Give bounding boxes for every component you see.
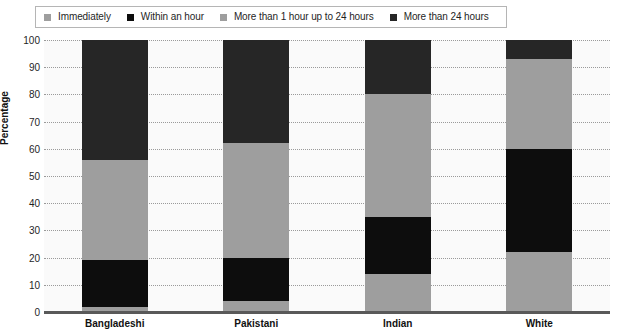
legend-label-more-than-24-hours: More than 24 hours bbox=[404, 12, 489, 22]
x-axis-label-white: White bbox=[526, 318, 553, 329]
bars-layer bbox=[44, 40, 610, 312]
bar-indian bbox=[365, 40, 431, 312]
bar-segment bbox=[223, 40, 289, 143]
legend-label-more-than-1-hour: More than 1 hour up to 24 hours bbox=[234, 12, 374, 22]
bar-segment bbox=[223, 258, 289, 302]
legend-item-immediately: Immediately bbox=[44, 12, 111, 22]
bar-segment bbox=[506, 252, 572, 312]
bar-pakistani bbox=[223, 40, 289, 312]
bar-bangladeshi bbox=[82, 40, 148, 312]
bar-segment bbox=[365, 274, 431, 312]
y-axis-tick-label: 80 bbox=[0, 89, 40, 100]
y-axis-tick-label: 40 bbox=[0, 198, 40, 209]
bar-segment bbox=[506, 149, 572, 252]
y-axis-tick-label: 10 bbox=[0, 279, 40, 290]
bar-white bbox=[506, 40, 572, 312]
legend-label-immediately: Immediately bbox=[58, 12, 111, 22]
y-axis-tick-label: 70 bbox=[0, 116, 40, 127]
legend-swatch-within-an-hour bbox=[127, 14, 134, 21]
bar-segment bbox=[506, 59, 572, 149]
x-axis-label-pakistani: Pakistani bbox=[234, 318, 278, 329]
bar-segment bbox=[365, 217, 431, 274]
bar-segment bbox=[506, 40, 572, 59]
y-axis-tick-label: 90 bbox=[0, 62, 40, 73]
bar-segment bbox=[82, 40, 148, 160]
legend-label-within-an-hour: Within an hour bbox=[141, 12, 204, 22]
legend-swatch-more-than-24-hours bbox=[390, 14, 397, 21]
y-axis-tick-label: 100 bbox=[0, 35, 40, 46]
x-axis-label-bangladeshi: Bangladeshi bbox=[85, 318, 144, 329]
y-axis-tick-label: 20 bbox=[0, 252, 40, 263]
x-axis-line bbox=[44, 311, 610, 314]
legend-item-more-than-1-hour: More than 1 hour up to 24 hours bbox=[220, 12, 374, 22]
chart-legend: Immediately Within an hour More than 1 h… bbox=[35, 6, 507, 28]
legend-item-within-an-hour: Within an hour bbox=[127, 12, 204, 22]
bar-segment bbox=[82, 260, 148, 306]
y-axis-tick-label: 30 bbox=[0, 225, 40, 236]
y-axis-tick-labels: 1009080706050403020100 bbox=[0, 40, 40, 312]
bar-segment bbox=[365, 40, 431, 94]
x-axis-label-indian: Indian bbox=[383, 318, 412, 329]
bar-segment bbox=[82, 160, 148, 261]
legend-item-more-than-24-hours: More than 24 hours bbox=[390, 12, 489, 22]
y-axis-tick-label: 50 bbox=[0, 171, 40, 182]
bar-segment bbox=[365, 94, 431, 216]
legend-swatch-immediately bbox=[44, 14, 51, 21]
plot-area bbox=[44, 40, 610, 312]
y-axis-tick-label: 0 bbox=[0, 307, 40, 318]
y-axis-tick-label: 60 bbox=[0, 143, 40, 154]
legend-swatch-more-than-1-hour bbox=[220, 14, 227, 21]
bar-segment bbox=[223, 143, 289, 257]
